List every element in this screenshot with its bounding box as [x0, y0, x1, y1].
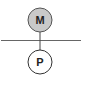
node-p: P [28, 50, 52, 74]
node-m: M [28, 8, 52, 32]
node-m-label: M [35, 14, 44, 26]
node-p-label: P [36, 56, 43, 68]
diagram-canvas: M P [0, 0, 86, 87]
